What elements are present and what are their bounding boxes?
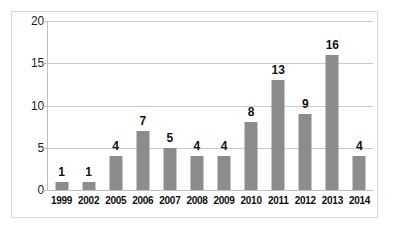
bar-value-label: 9 — [302, 98, 309, 110]
bar[interactable] — [218, 156, 231, 190]
x-axis-tick-label: 2009 — [211, 194, 238, 207]
y-axis-tick-label: 20 — [14, 15, 44, 27]
bar-slot: 7 — [129, 21, 156, 190]
bar-slot: 16 — [319, 21, 346, 190]
bar-slot: 9 — [292, 21, 319, 190]
bar-value-label: 1 — [58, 166, 65, 178]
bar-slot: 1 — [75, 21, 102, 190]
bar[interactable] — [55, 182, 68, 190]
y-axis-tick-mark — [43, 106, 47, 107]
y-axis-tick-label: 5 — [14, 142, 44, 154]
bar[interactable] — [272, 80, 285, 190]
y-axis-tick-label: 15 — [14, 57, 44, 69]
bar-value-label: 8 — [248, 106, 255, 118]
x-axis-tick-label: 2013 — [319, 194, 346, 207]
bar-slot: 8 — [238, 21, 265, 190]
bar-slot: 4 — [102, 21, 129, 190]
bar[interactable] — [109, 156, 122, 190]
x-axis-tick-label: 2007 — [156, 194, 183, 207]
x-axis-tick-label: 2012 — [292, 194, 319, 207]
bar[interactable] — [190, 156, 203, 190]
bar[interactable] — [353, 156, 366, 190]
bar-slot: 4 — [346, 21, 373, 190]
bar-slot: 13 — [265, 21, 292, 190]
y-axis-tick-mark — [43, 148, 47, 149]
x-axis-tick-label: 2006 — [129, 194, 156, 207]
y-axis-label-group: 05101520 — [14, 14, 44, 194]
bar[interactable] — [82, 182, 95, 190]
bar-value-label: 13 — [272, 64, 285, 76]
x-axis-tick-label: 2002 — [75, 194, 102, 207]
x-axis-tick-label: 2014 — [346, 194, 373, 207]
y-axis-tick-mark — [43, 21, 47, 22]
bar-value-label: 7 — [139, 115, 146, 127]
bar[interactable] — [245, 122, 258, 190]
bar-slot: 4 — [211, 21, 238, 190]
x-axis-label-group: 1999200220052006200720082009201020112012… — [48, 194, 373, 210]
bar[interactable] — [163, 148, 176, 190]
bar[interactable] — [136, 131, 149, 190]
bar-slot: 4 — [183, 21, 210, 190]
x-axis-tick-label: 2011 — [265, 194, 292, 207]
x-axis-tick-label: 2010 — [238, 194, 265, 207]
bar-value-label: 5 — [167, 132, 174, 144]
y-axis-tick-mark — [43, 63, 47, 64]
bar-chart-figure: 05101520 11475448139164 1999200220052006… — [0, 0, 396, 231]
bar[interactable] — [326, 55, 339, 190]
x-axis-tick-label: 2008 — [183, 194, 210, 207]
bar-value-label: 4 — [221, 140, 228, 152]
x-axis-tick-label: 1999 — [48, 194, 75, 207]
bar-slot: 5 — [156, 21, 183, 190]
bar-value-label: 4 — [356, 140, 363, 152]
bar-slot: 1 — [48, 21, 75, 190]
bar-value-label: 4 — [194, 140, 201, 152]
y-axis-tick-label: 10 — [14, 100, 44, 112]
plot-area: 11475448139164 — [48, 21, 373, 191]
y-axis-tick-mark — [43, 190, 47, 191]
bar-value-label: 1 — [85, 166, 92, 178]
bar[interactable] — [299, 114, 312, 190]
y-axis-tick-label: 0 — [14, 184, 44, 196]
x-axis-tick-label: 2005 — [102, 194, 129, 207]
bars-layer: 11475448139164 — [48, 21, 373, 191]
bar-value-label: 4 — [112, 140, 119, 152]
bar-value-label: 16 — [326, 39, 339, 51]
